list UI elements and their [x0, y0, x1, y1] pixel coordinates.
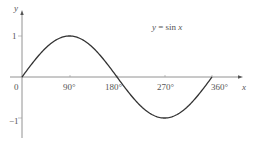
y-axis-arrow-icon [20, 10, 23, 15]
y-tick-1: 1 [12, 31, 17, 41]
x-tick-270: 270° [157, 82, 175, 92]
x-tick-180: 180° [105, 82, 123, 92]
y-tick-minus1: −1 [9, 116, 19, 126]
equation-annotation: y = sin x [151, 22, 182, 32]
x-axis-label: x [241, 82, 246, 92]
sine-chart: y x 0 1 −1 90° 180° 270° 360° y = sin x [0, 0, 253, 142]
x-tick-90: 90° [63, 82, 76, 92]
y-axis-label: y [13, 3, 18, 13]
equation-x: x [177, 22, 182, 32]
x-tick-360: 360° [211, 82, 229, 92]
equation-middle: = sin [156, 22, 178, 32]
origin-label: 0 [14, 82, 19, 92]
x-axis-arrow-icon [238, 75, 243, 78]
